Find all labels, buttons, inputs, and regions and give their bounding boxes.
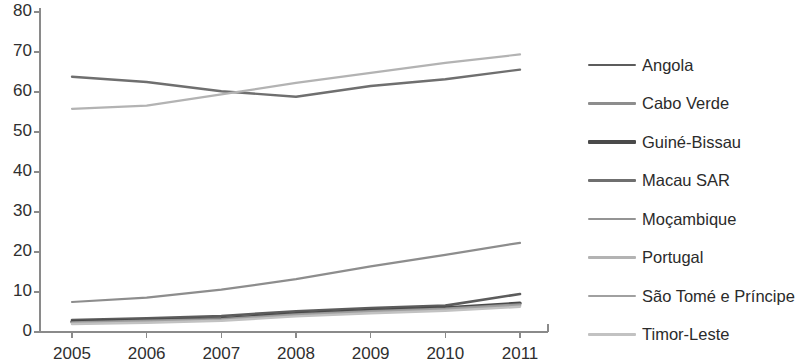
y-axis-tick-label: 30 (2, 201, 32, 221)
legend-item-guin-bissau[interactable]: Guiné-Bissau (588, 132, 741, 152)
x-axis-tick-label: 2009 (341, 344, 401, 364)
y-axis-tick-label: 20 (2, 241, 32, 261)
y-axis-tick-label: 50 (2, 121, 32, 141)
legend-swatch-icon (588, 140, 636, 143)
x-axis-tick-label: 2008 (266, 344, 326, 364)
x-axis-tick-label: 2005 (42, 344, 102, 364)
x-axis-tick-label: 2006 (117, 344, 177, 364)
legend-item-portugal[interactable]: Portugal (588, 248, 703, 268)
y-axis-tick-label: 10 (2, 281, 32, 301)
legend-item-angola[interactable]: Angola (588, 55, 693, 75)
legend-label: Portugal (642, 249, 703, 266)
y-axis-tick-label: 80 (2, 1, 32, 21)
y-axis-tick-label: 40 (2, 161, 32, 181)
x-axis-tick-label: 2010 (415, 344, 475, 364)
legend-label: São Tomé e Príncipe (642, 288, 795, 305)
legend-swatch-icon (588, 218, 636, 220)
legend-item-macau-sar[interactable]: Macau SAR (588, 171, 730, 191)
axis-lines (34, 8, 548, 338)
series-lines (72, 54, 520, 324)
legend-item-timor-leste[interactable]: Timor-Leste (588, 325, 729, 345)
legend-label: Moçambique (642, 211, 736, 228)
legend-swatch-icon (588, 295, 636, 298)
y-axis-tick-label: 60 (2, 81, 32, 101)
series-line-s-o-tom-e-pr-ncipe (72, 306, 520, 324)
legend-item-s-o-tom-e-pr-ncipe[interactable]: São Tomé e Príncipe (588, 286, 795, 306)
x-axis-tick-label: 2011 (490, 344, 550, 364)
legend-item-mo-ambique[interactable]: Moçambique (588, 209, 736, 229)
legend-item-cabo-verde[interactable]: Cabo Verde (588, 94, 729, 114)
legend-swatch-icon (588, 179, 636, 181)
legend-swatch-icon (588, 256, 636, 258)
legend-swatch-icon (588, 333, 636, 335)
x-axis-tick-label: 2007 (191, 344, 251, 364)
legend-label: Guiné-Bissau (642, 134, 741, 151)
y-axis-tick-label: 0 (2, 321, 32, 341)
series-line-guin-bissau (72, 303, 520, 321)
series-line-cabo-verde (72, 243, 520, 302)
legend-label: Macau SAR (642, 172, 730, 189)
y-axis-tick-label: 70 (2, 41, 32, 61)
legend-label: Angola (642, 57, 693, 74)
legend-label: Timor-Leste (642, 326, 729, 343)
legend-swatch-icon (588, 102, 636, 104)
legend-label: Cabo Verde (642, 95, 729, 112)
legend-swatch-icon (588, 64, 636, 67)
